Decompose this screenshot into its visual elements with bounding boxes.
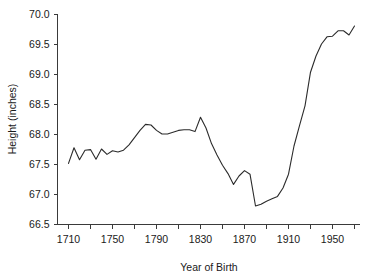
y-axis-ticks xyxy=(54,14,58,224)
y-axis-tick-labels: 66.567.067.568.068.569.069.570.0 xyxy=(29,8,50,230)
x-axis-tick-labels: 1710175017901830187019101950 xyxy=(57,233,345,245)
y-axis-title: Height (inches) xyxy=(6,84,18,155)
y-tick-label: 69.0 xyxy=(29,68,50,80)
x-tick-label: 1710 xyxy=(57,233,81,245)
y-tick-label: 67.5 xyxy=(29,158,50,170)
x-tick-label: 1870 xyxy=(233,233,257,245)
y-tick-label: 69.5 xyxy=(29,38,50,50)
x-axis-title: Year of Birth xyxy=(180,261,238,273)
y-tick-label: 66.5 xyxy=(29,218,50,230)
y-tick-label: 68.0 xyxy=(29,128,50,140)
x-tick-label: 1910 xyxy=(277,233,301,245)
y-tick-label: 68.5 xyxy=(29,98,50,110)
x-tick-label: 1750 xyxy=(101,233,125,245)
line-chart: 66.567.067.568.068.569.069.570.0 1710175… xyxy=(0,0,370,278)
y-tick-label: 67.0 xyxy=(29,188,50,200)
x-tick-label: 1830 xyxy=(189,233,213,245)
height-series-line xyxy=(69,26,355,206)
x-axis-ticks xyxy=(69,224,355,229)
y-tick-label: 70.0 xyxy=(29,8,50,20)
x-tick-label: 1950 xyxy=(321,233,345,245)
chart-figure: 66.567.067.568.068.569.069.570.0 1710175… xyxy=(0,0,370,278)
x-tick-label: 1790 xyxy=(145,233,169,245)
